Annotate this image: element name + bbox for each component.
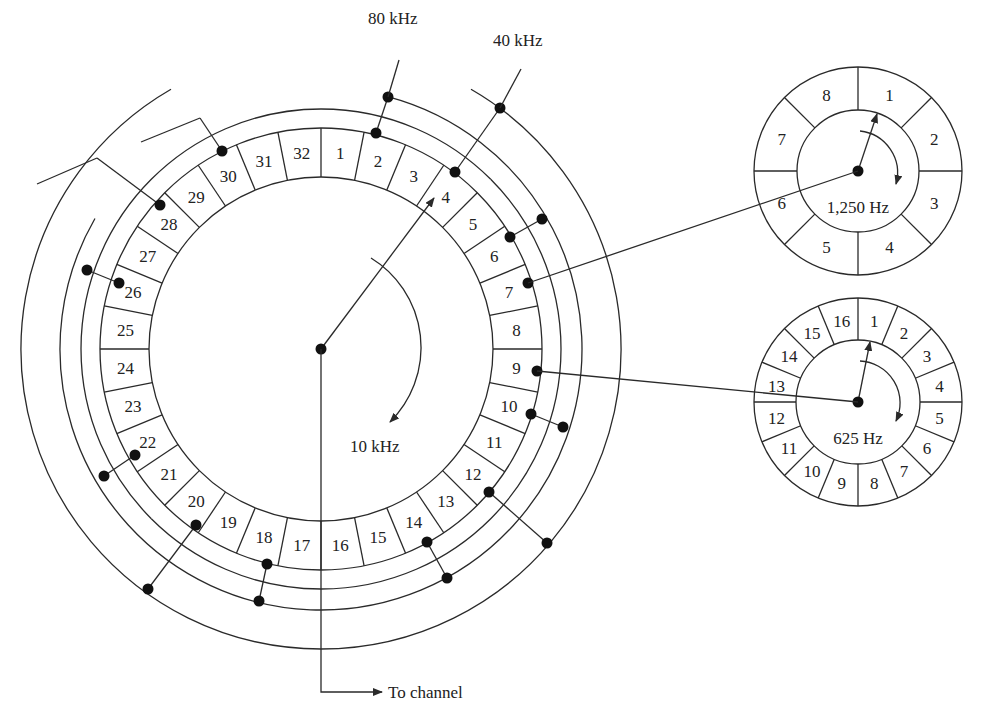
main-segment-31: 31 xyxy=(255,152,272,171)
main-segment-14: 14 xyxy=(405,513,423,532)
link-seg28-outer xyxy=(37,158,97,184)
rotation-direction-arrow xyxy=(371,258,421,422)
wheel625-segment-4: 4 xyxy=(935,377,944,396)
wheel625-divider xyxy=(882,306,898,345)
main-divider xyxy=(480,415,525,434)
main-segment-32: 32 xyxy=(293,144,310,163)
wheel625-segment-14: 14 xyxy=(780,347,798,366)
link-seg7-to-1250hz xyxy=(528,171,858,283)
main-segment-5: 5 xyxy=(469,215,478,234)
main-segment-20: 20 xyxy=(188,492,205,511)
wheel625-rate-label: 625 Hz xyxy=(833,429,883,448)
link-seg30 xyxy=(200,118,222,151)
link-seg9-to-625hz xyxy=(537,371,858,402)
wheel1250-segment-4: 4 xyxy=(885,238,894,257)
main-divider xyxy=(490,306,538,316)
main-segment-4: 4 xyxy=(441,188,450,207)
wheel1250-rotor-arrow xyxy=(858,114,877,171)
main-segment-22: 22 xyxy=(139,433,156,452)
wheel1250-rotation-arrow xyxy=(860,131,898,184)
dot-seg30 xyxy=(217,146,228,157)
dot-seg4 xyxy=(450,167,461,178)
rotor-arm-arrow xyxy=(321,198,434,349)
main-segment-2: 2 xyxy=(374,152,383,171)
main-segment-27: 27 xyxy=(139,247,157,266)
main-divider xyxy=(236,508,255,553)
main-segment-6: 6 xyxy=(490,247,499,266)
main-segment-11: 11 xyxy=(486,433,502,452)
wheel1250-segment-2: 2 xyxy=(930,130,939,149)
dot-seg26-outer xyxy=(82,265,93,276)
diagram-svg: 1234567891011121314151617181920212223242… xyxy=(0,0,997,728)
wheel1250-rate-label: 1,250 Hz xyxy=(827,198,890,217)
main-segment-7: 7 xyxy=(505,283,514,302)
main-segment-13: 13 xyxy=(437,492,454,511)
dot-seg22 xyxy=(130,450,141,461)
link-seg4 xyxy=(455,108,500,172)
main-segment-9: 9 xyxy=(512,359,521,378)
main-divider xyxy=(278,132,288,180)
main-rotor: 10 kHz xyxy=(316,198,435,456)
main-rate-label: 10 kHz xyxy=(350,437,400,456)
main-divider xyxy=(387,145,406,190)
wheel625-segment-11: 11 xyxy=(781,439,797,458)
link-seg6 xyxy=(510,219,542,237)
main-segment-25: 25 xyxy=(117,321,134,340)
wheel1250-divider xyxy=(784,214,814,244)
main-divider xyxy=(104,383,152,393)
main-segment-26: 26 xyxy=(124,283,141,302)
wheel1250-segment-3: 3 xyxy=(930,194,939,213)
wheel625-divider xyxy=(818,306,834,345)
to-channel-label: To channel xyxy=(388,683,463,702)
link-seg20 xyxy=(148,525,196,589)
main-segment-29: 29 xyxy=(188,188,205,207)
dot-seg14 xyxy=(422,537,433,548)
output-path: To channel xyxy=(321,349,463,702)
wheel625-rotation-arrow xyxy=(860,361,900,421)
dot-seg20 xyxy=(191,520,202,531)
main-divider xyxy=(387,508,406,553)
main-divider xyxy=(117,415,162,434)
dot-seg26 xyxy=(114,278,125,289)
main-divider xyxy=(236,145,255,190)
dot-seg6-outer xyxy=(537,214,548,225)
wheel1250-segment-5: 5 xyxy=(822,238,831,257)
link-seg22 xyxy=(104,455,135,476)
main-divider xyxy=(104,306,152,316)
dot-seg28 xyxy=(155,200,166,211)
main-segment-23: 23 xyxy=(124,397,141,416)
wheel1250-segment-8: 8 xyxy=(822,86,831,105)
lead-80khz xyxy=(388,60,399,97)
wheel625-segment-1: 1 xyxy=(870,312,879,331)
main-segment-18: 18 xyxy=(255,528,272,547)
main-segment-30: 30 xyxy=(220,167,237,186)
wheel625-segment-2: 2 xyxy=(900,324,909,343)
main-segment-16: 16 xyxy=(332,536,349,555)
dot-seg6 xyxy=(505,232,516,243)
main-segment-3: 3 xyxy=(409,167,418,186)
wheel625-segment-15: 15 xyxy=(803,324,820,343)
link-seg30-outer xyxy=(141,118,200,142)
wheel1250-segment-1: 1 xyxy=(885,86,894,105)
wheel625-rotor-arrow xyxy=(858,342,870,402)
dot-seg12-outer xyxy=(542,538,553,549)
main-divider xyxy=(490,383,538,393)
wheel1250-divider xyxy=(784,97,814,127)
main-segment-8: 8 xyxy=(512,321,521,340)
main-divider xyxy=(417,165,444,206)
main-divider xyxy=(355,518,365,566)
dot-seg18-outer xyxy=(254,596,265,607)
wheel1250-divider xyxy=(901,97,931,127)
dot-seg10-outer xyxy=(558,422,569,433)
label-80khz: 80 kHz xyxy=(368,9,418,28)
main-divider xyxy=(278,518,288,566)
commutator-diagram: 1234567891011121314151617181920212223242… xyxy=(0,0,997,728)
wheel625-segment-13: 13 xyxy=(768,377,785,396)
wheel1250-divider xyxy=(901,214,931,244)
dot-seg18 xyxy=(262,559,273,570)
main-segment-15: 15 xyxy=(370,528,387,547)
link-seg12 xyxy=(489,492,547,543)
main-divider xyxy=(480,264,525,283)
dot-seg20-outer xyxy=(143,584,154,595)
main-divider xyxy=(355,132,365,180)
